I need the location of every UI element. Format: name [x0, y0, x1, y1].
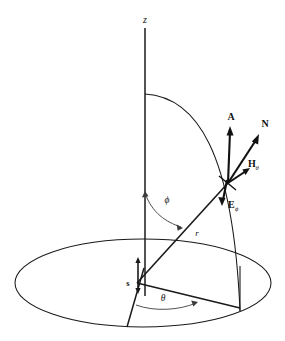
- radius-line-r: [137, 183, 228, 283]
- vector-e-subscript: ϕ: [235, 205, 239, 212]
- vector-e-label: E: [228, 199, 235, 210]
- vector-h-subscript: θ: [256, 164, 260, 171]
- azimuth-angle-arrow: [191, 301, 198, 307]
- ground-projection-line: [137, 283, 240, 308]
- azimuth-reference-line: [127, 268, 144, 327]
- vector-a-arrowhead: [227, 126, 234, 136]
- radial-distance-label: r: [195, 228, 199, 238]
- diagram-canvas: z s r ϕ θ A N H θ E ϕ: [0, 0, 285, 341]
- spherical-coordinate-diagram: z s r ϕ θ A N H θ E ϕ: [0, 0, 285, 341]
- vector-a-label: A: [227, 111, 235, 122]
- vector-h-label-group: H θ: [248, 158, 260, 171]
- vector-a-shaft: [228, 132, 230, 183]
- meridian-arc: [145, 94, 240, 311]
- polar-angle-arrow-top: [142, 191, 149, 198]
- z-axis-tick-arrow-up: [135, 257, 140, 263]
- vector-e-arrowhead: [218, 197, 225, 206]
- z-axis-label: z: [142, 14, 147, 25]
- azimuth-angle-label: θ: [161, 293, 166, 303]
- source-point-label: s: [126, 278, 130, 288]
- polar-angle-arc: [145, 193, 181, 227]
- vector-n-label: N: [261, 118, 269, 129]
- azimuth-angle-arc: [136, 303, 196, 309]
- polar-angle-arrow-bottom: [177, 224, 183, 230]
- base-plane-ellipse: [15, 239, 271, 327]
- polar-angle-label: ϕ: [165, 195, 170, 205]
